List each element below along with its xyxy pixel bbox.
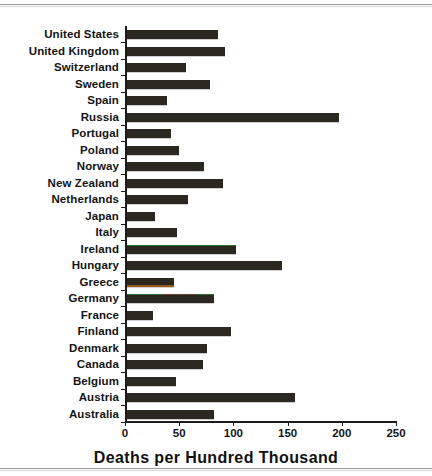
bar-row: Australia (0, 406, 432, 423)
bar-row: Italy (0, 224, 432, 241)
bar (127, 393, 295, 402)
value-axis-tick-label: 50 (159, 427, 199, 439)
bar (127, 47, 225, 56)
bar (127, 80, 210, 89)
value-axis-tick (179, 421, 180, 426)
category-label: Netherlands (0, 191, 119, 208)
bar (127, 113, 339, 122)
value-axis-tick-label: 100 (213, 427, 253, 439)
category-label: France (0, 307, 119, 324)
bar-row: Netherlands (0, 191, 432, 208)
bar (127, 146, 179, 155)
bar (127, 245, 236, 254)
bar (127, 311, 153, 320)
category-label: Belgium (0, 373, 119, 390)
value-axis-tick-label: 200 (322, 427, 362, 439)
category-label: Spain (0, 92, 119, 109)
category-label: Hungary (0, 257, 119, 274)
page-bottom-rule (0, 468, 432, 469)
bar (127, 179, 223, 188)
category-label: Sweden (0, 76, 119, 93)
bar (127, 129, 171, 138)
category-label: United States (0, 26, 119, 43)
bar-row: Hungary (0, 257, 432, 274)
bar-row: Germany (0, 290, 432, 307)
category-label: Finland (0, 323, 119, 340)
bar-row: Greece (0, 274, 432, 291)
bar-row: Sweden (0, 76, 432, 93)
value-axis-tick-label: 150 (268, 427, 308, 439)
bar (127, 360, 203, 369)
bar (127, 261, 282, 270)
bar-row: United Kingdom (0, 43, 432, 60)
bar-row: Denmark (0, 340, 432, 357)
bar-row: Canada (0, 356, 432, 373)
bar (127, 344, 207, 353)
value-axis-tick (125, 421, 126, 426)
bar-row: Switzerland (0, 59, 432, 76)
page-top-rule-secondary (0, 6, 432, 7)
bar (127, 96, 167, 105)
value-axis-tick-label: 250 (376, 427, 416, 439)
category-label: Switzerland (0, 59, 119, 76)
bar-row: Ireland (0, 241, 432, 258)
bar-row: Belgium (0, 373, 432, 390)
x-axis-title: Deaths per Hundred Thousand (0, 449, 432, 467)
bar-row: France (0, 307, 432, 324)
category-label: Austria (0, 389, 119, 406)
bar-row: Spain (0, 92, 432, 109)
category-label: Australia (0, 406, 119, 423)
category-label: Portugal (0, 125, 119, 142)
value-axis-tick (288, 421, 289, 426)
bar (127, 195, 188, 204)
bar (127, 278, 174, 287)
bar-row: United States (0, 26, 432, 43)
bar (127, 327, 231, 336)
bar (127, 294, 214, 303)
bar (127, 162, 204, 171)
bar-row: Norway (0, 158, 432, 175)
category-label: United Kingdom (0, 43, 119, 60)
bar-row: Finland (0, 323, 432, 340)
category-label: Germany (0, 290, 119, 307)
category-label: Italy (0, 224, 119, 241)
bar (127, 228, 177, 237)
category-label: Russia (0, 109, 119, 126)
bar-row: Japan (0, 208, 432, 225)
category-label: Poland (0, 142, 119, 159)
bar-row: Austria (0, 389, 432, 406)
page-bottom-rule-secondary (0, 470, 432, 471)
bar (127, 377, 176, 386)
category-label: Canada (0, 356, 119, 373)
bar-row: Russia (0, 109, 432, 126)
bar-row: Poland (0, 142, 432, 159)
category-label: New Zealand (0, 175, 119, 192)
bar (127, 212, 155, 221)
chart-page: United StatesUnited KingdomSwitzerlandSw… (0, 0, 432, 476)
bar (127, 30, 218, 39)
category-label: Denmark (0, 340, 119, 357)
bar-row: Portugal (0, 125, 432, 142)
bar (127, 410, 214, 419)
value-axis-tick (233, 421, 234, 426)
category-label: Japan (0, 208, 119, 225)
value-axis-tick (342, 421, 343, 426)
bar (127, 63, 186, 72)
bar-chart: United StatesUnited KingdomSwitzerlandSw… (0, 12, 432, 424)
value-axis-tick (396, 421, 397, 426)
value-axis-tick-label: 0 (105, 427, 145, 439)
bar-row: New Zealand (0, 175, 432, 192)
page-top-rule (0, 4, 432, 5)
category-label: Ireland (0, 241, 119, 258)
category-label: Greece (0, 274, 119, 291)
category-label: Norway (0, 158, 119, 175)
